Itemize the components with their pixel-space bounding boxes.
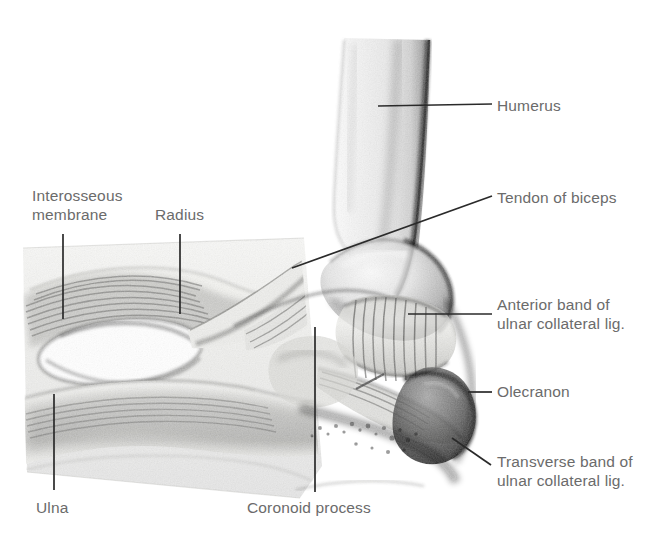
label-humerus: Humerus: [497, 96, 561, 115]
label-coronoid-process: Coronoid process: [247, 498, 371, 517]
anatomical-figure: HumerusTendon of bicepsAnterior band of …: [0, 0, 657, 554]
label-radius: Radius: [155, 205, 204, 224]
label-anterior-band-of-ulnar-collateral-lig: Anterior band of ulnar collateral lig.: [497, 295, 625, 333]
label-olecranon: Olecranon: [497, 382, 570, 401]
label-tendon-of-biceps: Tendon of biceps: [497, 188, 617, 207]
label-ulna: Ulna: [36, 498, 68, 517]
label-interosseous-membrane: Interosseous membrane: [32, 186, 123, 224]
label-transverse-band-of-ulnar-collateral-lig: Transverse band of ulnar collateral lig.: [497, 452, 633, 490]
